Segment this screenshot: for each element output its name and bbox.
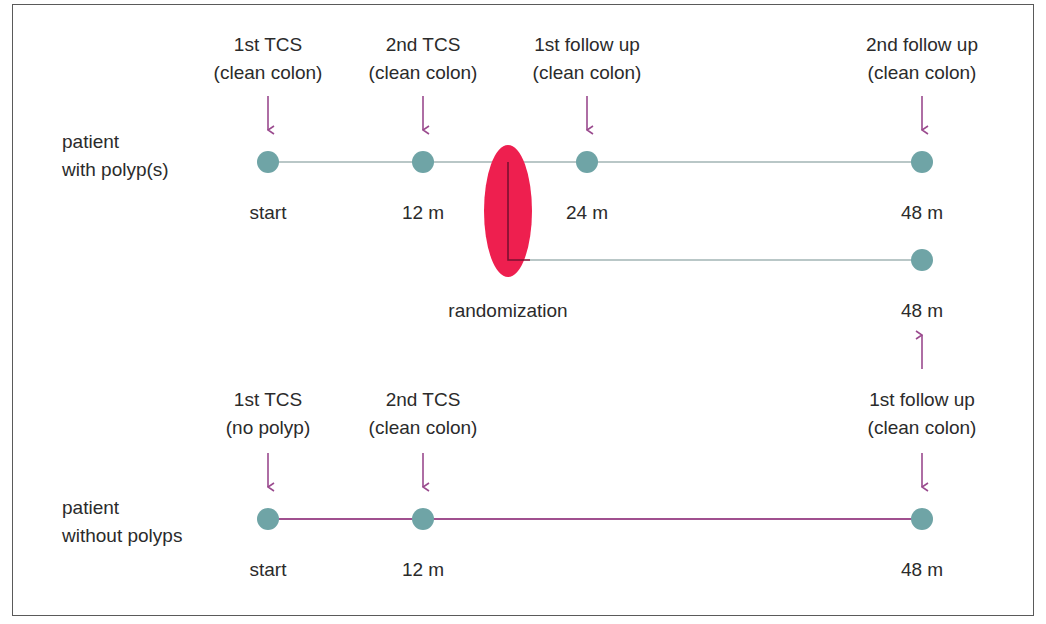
row-label-line: with polyp(s) xyxy=(62,156,169,184)
event-title: 2nd TCS xyxy=(369,31,478,59)
event-title: 2nd TCS xyxy=(369,386,478,414)
row-label-line: patient xyxy=(62,494,182,522)
event-note: (clean colon) xyxy=(369,414,478,442)
timeline-node xyxy=(412,151,434,173)
timeline-node xyxy=(911,508,933,530)
timeline-node xyxy=(911,151,933,173)
event-note: (clean colon) xyxy=(866,59,978,87)
branch-node xyxy=(911,249,933,271)
time-label: 24 m xyxy=(566,199,608,227)
time-label: 12 m xyxy=(402,199,444,227)
row-label-without-polyps: patient without polyps xyxy=(62,494,182,550)
event-title: 1st follow up xyxy=(533,31,642,59)
event-header: 2nd TCS (clean colon) xyxy=(369,31,478,87)
timeline-node xyxy=(412,508,434,530)
row-label-line: without polyps xyxy=(62,522,182,550)
event-header: 2nd TCS (clean colon) xyxy=(369,386,478,442)
time-label: 48 m xyxy=(901,556,943,584)
event-header: 1st follow up (clean colon) xyxy=(533,31,642,87)
event-title: 1st TCS xyxy=(226,386,311,414)
event-note: (clean colon) xyxy=(868,414,977,442)
timeline-with-polyps xyxy=(257,96,933,369)
row-label-with-polyps: patient with polyp(s) xyxy=(62,128,169,184)
event-note: (clean colon) xyxy=(214,59,323,87)
timeline-node xyxy=(576,151,598,173)
event-header: 2nd follow up (clean colon) xyxy=(866,31,978,87)
event-note: (clean colon) xyxy=(369,59,478,87)
event-header: 1st follow up (clean colon) xyxy=(868,386,977,442)
row-label-line: patient xyxy=(62,128,169,156)
event-header: 1st TCS (clean colon) xyxy=(214,31,323,87)
time-label: 48 m xyxy=(901,199,943,227)
time-label: start xyxy=(250,199,287,227)
event-title: 2nd follow up xyxy=(866,31,978,59)
timeline-node xyxy=(257,508,279,530)
randomization-label: randomization xyxy=(448,297,567,325)
event-note: (clean colon) xyxy=(533,59,642,87)
time-label: 12 m xyxy=(402,556,444,584)
event-title: 1st TCS xyxy=(214,31,323,59)
time-label: 48 m xyxy=(901,297,943,325)
time-label: start xyxy=(250,556,287,584)
timeline-node xyxy=(257,151,279,173)
timeline-without-polyps xyxy=(257,453,933,530)
event-header: 1st TCS (no polyp) xyxy=(226,386,311,442)
event-note: (no polyp) xyxy=(226,414,311,442)
event-title: 1st follow up xyxy=(868,386,977,414)
